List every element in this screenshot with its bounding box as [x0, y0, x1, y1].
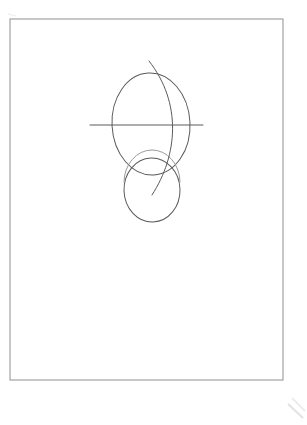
- scan-image: [0, 0, 307, 425]
- sketch-canvas: Scanned pencil sketch construction-sketc…: [0, 0, 307, 425]
- corner-smudge-top-left: [8, 14, 16, 16]
